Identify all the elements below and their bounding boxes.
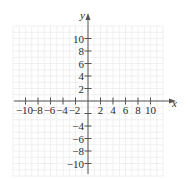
y-tick-label: −6 <box>72 133 84 145</box>
y-axis-arrow-icon <box>86 13 91 20</box>
y-tick-label: 2 <box>79 83 85 95</box>
y-tick-label: 8 <box>79 45 85 57</box>
y-tick-label: −4 <box>72 120 84 132</box>
y-tick-label: 6 <box>79 58 85 70</box>
x-tick-label: 8 <box>135 104 141 116</box>
x-tick-label: 10 <box>145 104 157 116</box>
y-tick-label: −8 <box>72 145 84 157</box>
y-tick-label: 10 <box>73 33 85 45</box>
x-tick-label: −6 <box>44 104 56 116</box>
x-tick-label: 2 <box>98 104 104 116</box>
x-tick-label: 4 <box>110 104 116 116</box>
x-tick-label: −4 <box>56 104 68 116</box>
y-tick-label: −10 <box>67 158 85 170</box>
y-axis-label: y <box>79 9 85 21</box>
x-tick-label: 6 <box>123 104 129 116</box>
x-axis-label: x <box>171 97 177 109</box>
y-tick-label: 4 <box>79 70 85 82</box>
x-tick-label: −2 <box>69 104 81 116</box>
coordinate-plane: −10−8−6−4−2246810108642−4−6−8−10 x y <box>0 0 190 179</box>
x-tick-label: −8 <box>31 104 43 116</box>
